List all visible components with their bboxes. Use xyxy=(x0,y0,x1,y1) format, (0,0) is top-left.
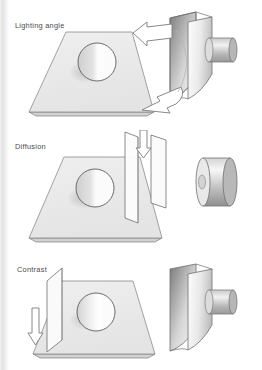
diffusion-diagram xyxy=(0,130,262,257)
diffusion-panel-near xyxy=(125,132,138,223)
curved-arrow-left xyxy=(133,22,172,46)
diagram-page: Lighting angle xyxy=(0,0,262,370)
sphere xyxy=(76,169,114,207)
softbox-light xyxy=(170,12,237,100)
cylinder-light-head xyxy=(196,158,237,206)
panel-contrast: Contrast xyxy=(0,257,262,370)
sphere xyxy=(78,43,116,81)
panel-diffusion: Diffusion xyxy=(0,130,262,257)
diffusion-panel-far xyxy=(151,135,166,208)
lighting-angle-diagram xyxy=(0,0,262,130)
contrast-diagram xyxy=(0,257,262,370)
reflector-card xyxy=(47,268,62,352)
panel-lighting-angle: Lighting angle xyxy=(0,0,262,130)
light-stem xyxy=(205,38,237,62)
light-stem xyxy=(205,290,237,314)
softbox-light xyxy=(170,264,237,351)
sphere xyxy=(77,293,115,331)
